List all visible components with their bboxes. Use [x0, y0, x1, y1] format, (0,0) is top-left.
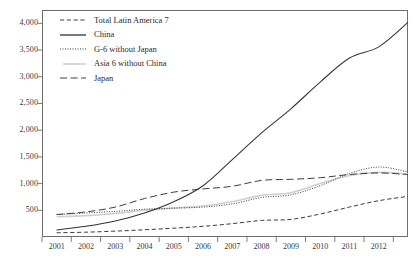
x-axis-tick-label: 2004	[136, 243, 152, 251]
x-axis-tick-label: 2011	[342, 243, 358, 251]
x-axis-tick-label: 2012	[371, 243, 387, 251]
x-axis-tick-label: 2010	[312, 243, 328, 251]
legend-item[interactable]: Total Latin America 7	[60, 13, 240, 28]
legend-item[interactable]: Asia 6 without China	[60, 57, 240, 72]
legend-item-label: Japan	[94, 74, 113, 83]
chart-container: 5001,0001,5002,0002,5003,0003,5004,000 2…	[0, 0, 420, 270]
legend-item-label: Asia 6 without China	[94, 59, 166, 68]
x-axis-tick-label: 2005	[166, 243, 182, 251]
x-axis-tick-label: 2009	[283, 243, 299, 251]
legend-item-label: G-6 without Japan	[94, 45, 157, 54]
x-axis-tick-labels: 2001200220032004200520062007200820092010…	[0, 243, 420, 259]
legend-item[interactable]: G-6 without Japan	[60, 42, 240, 57]
data-series-line	[57, 173, 408, 215]
x-axis-tick-label: 2003	[107, 243, 123, 251]
x-axis-tick-label: 2008	[254, 243, 270, 251]
legend-item[interactable]: China	[60, 28, 240, 43]
x-axis-tick-label: 2007	[224, 243, 240, 251]
legend-line-swatch	[60, 44, 87, 54]
legend-item-label: China	[94, 30, 114, 39]
data-series-line	[57, 172, 408, 216]
legend-line-swatch	[60, 59, 87, 69]
chart-legend: Total Latin America 7ChinaG-6 without Ja…	[60, 13, 240, 86]
x-axis-tick-label: 2001	[49, 243, 65, 251]
legend-item[interactable]: Japan	[60, 71, 240, 86]
legend-line-swatch	[60, 73, 87, 83]
x-axis-tick-label: 2006	[195, 243, 211, 251]
x-axis-tick-label: 2002	[78, 243, 94, 251]
legend-line-swatch	[60, 15, 87, 25]
legend-item-label: Total Latin America 7	[94, 16, 169, 25]
y-axis-ticks	[37, 23, 42, 210]
legend-line-swatch	[60, 30, 87, 40]
